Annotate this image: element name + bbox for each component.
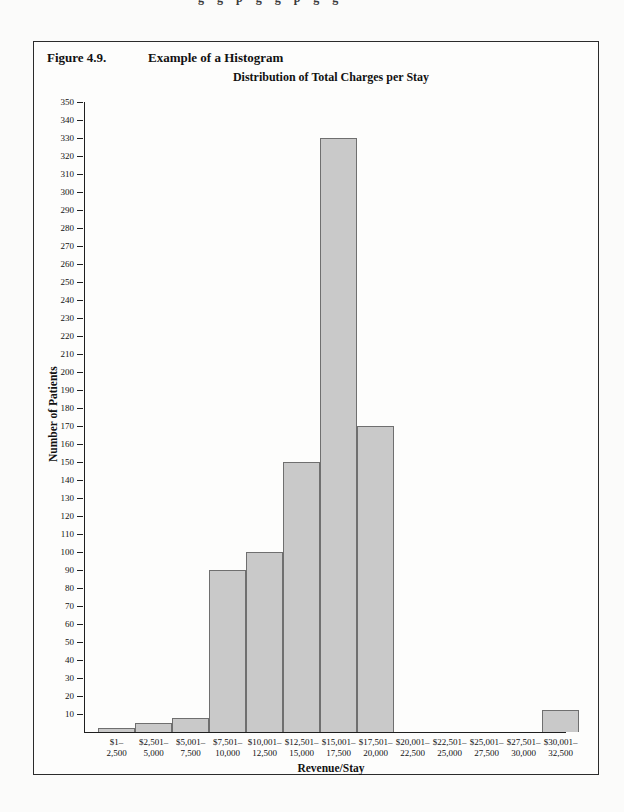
y-tick-mark — [77, 480, 83, 481]
x-tick-label-line: $30,001– — [544, 737, 578, 748]
y-tick-mark — [77, 192, 83, 193]
x-tick-label-line: 20,000 — [363, 748, 388, 759]
y-tick-label: 70 — [65, 601, 74, 611]
x-tick-label-line: $22,501– — [433, 737, 467, 748]
x-tick-label: $10,001–12,500 — [246, 737, 283, 759]
y-tick-mark — [77, 174, 83, 175]
chart-title: Distribution of Total Charges per Stay — [84, 70, 578, 86]
y-tick-label: 250 — [61, 277, 75, 287]
y-tick-label: 290 — [61, 205, 75, 215]
y-tick-label: 310 — [61, 169, 75, 179]
y-tick-mark — [77, 246, 83, 247]
x-tick-label-line: 7,500 — [180, 748, 200, 759]
y-tick-label: 180 — [61, 403, 75, 413]
x-tick-label-line: $27,501– — [507, 737, 541, 748]
y-tick-mark — [77, 318, 83, 319]
bar-$2,501–5,000 — [135, 723, 172, 732]
y-tick-label: 160 — [61, 439, 75, 449]
y-tick-mark — [77, 102, 83, 103]
x-tick-label-line: 15,000 — [289, 748, 314, 759]
y-tick-label: 90 — [65, 565, 74, 575]
x-tick-label: $25,001–27,500 — [468, 737, 505, 759]
y-tick-label: 300 — [61, 187, 75, 197]
y-tick-mark — [77, 426, 83, 427]
x-tick-label-line: $1– — [110, 737, 124, 748]
y-tick-mark — [77, 156, 83, 157]
y-tick-mark — [77, 228, 83, 229]
y-tick-label: 320 — [61, 151, 75, 161]
y-tick-label: 140 — [61, 475, 75, 485]
y-tick-label: 340 — [61, 115, 75, 125]
y-tick-label: 200 — [61, 367, 75, 377]
y-tick-mark — [77, 696, 83, 697]
x-tick-label: $2,501–5,000 — [135, 737, 172, 759]
y-tick-label: 230 — [61, 313, 75, 323]
x-tick-label-line: 2,500 — [106, 748, 126, 759]
x-tick-label-line: $7,501– — [213, 737, 242, 748]
x-axis-title: Revenue/Stay — [84, 762, 578, 774]
x-tick-label-line: $15,001– — [322, 737, 356, 748]
y-tick-mark — [77, 570, 83, 571]
y-tick-label: 350 — [61, 97, 75, 107]
bar-$15,001–17,500 — [320, 138, 357, 732]
y-tick-label: 10 — [65, 709, 74, 719]
y-tick-mark — [77, 516, 83, 517]
y-tick-mark — [77, 138, 83, 139]
x-tick-label-line: 5,000 — [143, 748, 163, 759]
x-tick-label: $7,501–10,000 — [209, 737, 246, 759]
y-tick-mark — [77, 552, 83, 553]
y-tick-mark — [77, 282, 83, 283]
y-tick-mark — [77, 714, 83, 715]
bar-$5,001–7,500 — [172, 718, 209, 732]
x-tick-label-line: $2,501– — [139, 737, 168, 748]
x-tick-label: $5,001–7,500 — [172, 737, 209, 759]
x-tick-label-line: 27,500 — [474, 748, 499, 759]
y-tick-mark — [77, 660, 83, 661]
y-tick-mark — [77, 498, 83, 499]
y-tick-label: 110 — [61, 529, 74, 539]
y-tick-mark — [77, 444, 83, 445]
x-tick-label-line: $17,501– — [359, 737, 393, 748]
x-tick-label-line: $5,001– — [176, 737, 205, 748]
x-tick-label-line: $25,001– — [470, 737, 504, 748]
x-tick-label-line: $10,001– — [248, 737, 282, 748]
x-tick-label-line: $20,001– — [396, 737, 430, 748]
y-tick-mark — [77, 264, 83, 265]
y-tick-label: 100 — [61, 547, 75, 557]
y-tick-mark — [77, 588, 83, 589]
y-tick-label: 220 — [61, 331, 75, 341]
y-tick-label: 330 — [61, 133, 75, 143]
histogram-chart: 1020304050607080901001101201301401501601… — [46, 102, 598, 732]
y-tick-label: 50 — [65, 637, 74, 647]
x-tick-label-line: 32,500 — [548, 748, 573, 759]
figure-number-label: Figure 4.9. — [47, 50, 148, 66]
x-tick-label-line: 10,000 — [215, 748, 240, 759]
y-tick-label: 260 — [61, 259, 75, 269]
y-tick-label: 40 — [65, 655, 74, 665]
y-tick-mark — [77, 642, 83, 643]
x-tick-label: $1–2,500 — [98, 737, 135, 759]
x-tick-label: $30,001–32,500 — [542, 737, 579, 759]
y-tick-mark — [77, 120, 83, 121]
y-tick-label: 120 — [61, 511, 75, 521]
y-tick-label: 130 — [61, 493, 75, 503]
cropped-text-from-previous-line: g g p g g p g g — [198, 0, 448, 7]
bar-$1–2,500 — [98, 728, 135, 732]
y-tick-label: 80 — [65, 583, 74, 593]
y-tick-mark — [77, 624, 83, 625]
y-tick-mark — [77, 300, 83, 301]
y-tick-mark — [77, 534, 83, 535]
y-tick-label: 270 — [61, 241, 75, 251]
bar-$17,501–20,000 — [357, 426, 394, 732]
x-tick-label: $12,501–15,000 — [283, 737, 320, 759]
y-tick-label: 60 — [65, 619, 74, 629]
y-tick-label: 210 — [61, 349, 75, 359]
y-tick-mark — [77, 354, 83, 355]
y-tick-mark — [77, 408, 83, 409]
x-tick-label: $22,501–25,000 — [431, 737, 468, 759]
x-tick-label: $27,501–30,000 — [505, 737, 542, 759]
y-tick-mark — [77, 678, 83, 679]
x-tick-label-line: 12,500 — [252, 748, 277, 759]
y-tick-label: 150 — [61, 457, 75, 467]
bar-$30,001–32,500 — [542, 710, 579, 732]
